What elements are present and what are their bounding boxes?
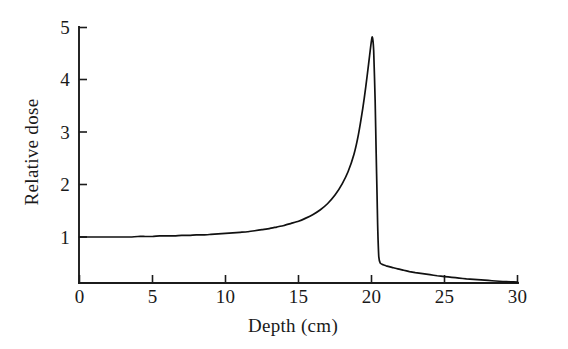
x-tick-label-0: 0 (75, 286, 85, 307)
y-tick-label-5: 5 (60, 17, 70, 38)
y-tick-label-4: 4 (60, 69, 70, 90)
depth-dose-chart: 5 4 3 2 1 0 5 10 15 20 25 30 Depth (cm) … (0, 0, 568, 349)
figure-container: 5 4 3 2 1 0 5 10 15 20 25 30 Depth (cm) … (0, 0, 568, 349)
y-tick-label-1: 1 (60, 227, 70, 248)
x-tick-label-30: 30 (508, 286, 527, 307)
x-tick-label-25: 25 (435, 286, 454, 307)
y-tick-label-3: 3 (60, 122, 70, 143)
x-tick-label-5: 5 (148, 286, 158, 307)
x-axis-title: Depth (cm) (248, 315, 338, 337)
y-tick-label-2: 2 (60, 174, 70, 195)
x-tick-label-15: 15 (289, 286, 308, 307)
y-axis-title: Relative dose (21, 99, 42, 206)
chart-background (0, 0, 568, 349)
x-tick-label-10: 10 (216, 286, 235, 307)
x-tick-label-20: 20 (362, 286, 381, 307)
